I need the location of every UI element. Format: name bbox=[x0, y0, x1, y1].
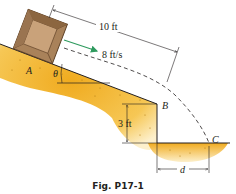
dimension-10ft-ext-right bbox=[167, 47, 179, 82]
diagram-figure: 10 ft 8 ft/s A θ B 3 ft C d bbox=[0, 0, 236, 194]
ground-lower-fill bbox=[148, 143, 228, 162]
label-point-b: B bbox=[162, 100, 168, 111]
dimension-10ft-ext-left bbox=[49, 5, 54, 18]
label-theta: θ bbox=[53, 68, 58, 79]
label-point-a: A bbox=[25, 65, 33, 76]
label-10ft: 10 ft bbox=[99, 21, 118, 32]
label-3ft: 3 ft bbox=[118, 118, 132, 129]
figure-caption: Fig. P17-1 bbox=[0, 181, 236, 191]
velocity-arrow bbox=[64, 40, 97, 51]
label-velocity: 8 ft/s bbox=[102, 49, 122, 60]
label-point-c: C bbox=[212, 134, 219, 145]
ground-slope-fill bbox=[0, 44, 157, 150]
